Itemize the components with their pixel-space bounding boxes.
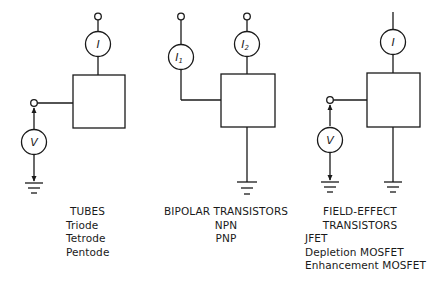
terminal-icon [31, 100, 38, 107]
terminal-icon [178, 13, 185, 20]
ground-icon [321, 182, 339, 192]
tubes-item: Pentode [66, 246, 109, 260]
bipolar-caption: BIPOLAR TRANSISTORS NPN PNP [158, 205, 294, 246]
bipolar-circuit [169, 13, 276, 194]
terminal-icon [244, 13, 251, 20]
device-box [221, 74, 275, 127]
meter-label: I [391, 36, 394, 49]
terminal-icon [95, 13, 102, 20]
fet-title: TRANSISTORS [305, 219, 415, 233]
tubes-item: Triode [66, 219, 109, 233]
fet-caption: FIELD-EFFECT TRANSISTORS JFET Depletion … [305, 205, 426, 273]
ground-icon [384, 182, 402, 192]
fet-item: Depletion MOSFET [305, 246, 426, 260]
bipolar-title: BIPOLAR TRANSISTORS [158, 205, 294, 219]
device-box [73, 75, 125, 128]
fet-circuit [318, 12, 421, 192]
bipolar-item: PNP [158, 232, 294, 246]
bipolar-item: NPN [158, 219, 294, 233]
tubes-item: Tetrode [66, 232, 109, 246]
tubes-title: TUBES [66, 205, 109, 219]
ground-icon [25, 183, 43, 193]
fet-item: JFET [305, 232, 426, 246]
device-box [367, 73, 420, 127]
fet-title: FIELD-EFFECT [305, 205, 415, 219]
fet-item: Enhancement MOSFET [305, 259, 426, 273]
meter-label: I [96, 38, 99, 51]
tubes-circuit [22, 13, 126, 193]
ground-icon [237, 182, 257, 194]
terminal-icon [327, 97, 334, 104]
tubes-caption: TUBES Triode Tetrode Pentode [66, 205, 109, 259]
